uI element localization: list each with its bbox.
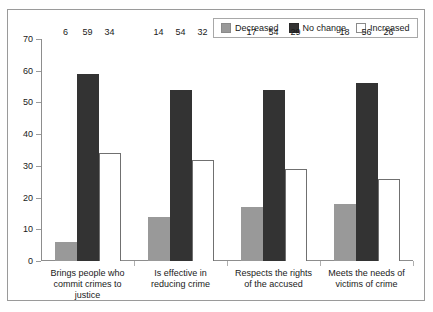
y-axis-tick: 70 <box>36 39 41 40</box>
bar-value-label: 14 <box>153 28 163 37</box>
bar-value-label: 26 <box>383 28 393 37</box>
y-axis-tick-label: 20 <box>23 193 33 202</box>
y-axis-tick-label: 60 <box>23 66 33 75</box>
bar-value-label: 29 <box>290 28 300 37</box>
bar-value-label: 59 <box>82 28 92 37</box>
bar-column: 18 <box>334 39 356 261</box>
bar-value-label: 54 <box>268 28 278 37</box>
y-axis-tick-label: 0 <box>28 257 33 266</box>
y-axis-tick-label: 70 <box>23 35 33 44</box>
y-axis-tick-label: 40 <box>23 130 33 139</box>
bar-column: 26 <box>378 39 400 261</box>
y-axis-tick: 50 <box>36 102 41 103</box>
bar: 32 <box>192 160 214 261</box>
category-label: Meets the needs ofvictims of crime <box>320 268 413 290</box>
category-label-line: justice <box>41 290 134 301</box>
bar-column: 17 <box>241 39 263 261</box>
category-label: Is effective inreducing crime <box>134 268 227 290</box>
category-separator <box>413 261 414 266</box>
category-label-line: commit crimes to <box>41 279 134 290</box>
y-axis-tick: 30 <box>36 166 41 167</box>
bar-value-label: 32 <box>197 28 207 37</box>
bar: 6 <box>55 242 77 261</box>
category-label-line: reducing crime <box>134 279 227 290</box>
chart-frame: Decreased No change Increased 7060504030… <box>7 9 425 301</box>
category-label-line: Meets the needs of <box>320 268 413 279</box>
category-label-line: of the accused <box>227 279 320 290</box>
bar: 17 <box>241 207 263 261</box>
bar: 34 <box>99 153 121 261</box>
category-label-line: victims of crime <box>320 279 413 290</box>
bar-value-label: 18 <box>339 28 349 37</box>
bar-group: 65934 <box>55 39 121 261</box>
bar: 54 <box>263 90 285 261</box>
category-label: Respects the rightsof the accused <box>227 268 320 290</box>
bar-column: 54 <box>263 39 285 261</box>
bar-group: 175429 <box>241 39 307 261</box>
y-axis-tick: 10 <box>36 229 41 230</box>
bar-column: 14 <box>148 39 170 261</box>
bar-value-label: 6 <box>63 28 68 37</box>
bar: 56 <box>356 83 378 261</box>
plot-area: 706050403020100 65934145432175429185626 <box>41 39 413 261</box>
bar-value-label: 56 <box>361 28 371 37</box>
category-separator <box>227 261 228 266</box>
bar-column: 54 <box>170 39 192 261</box>
bar-column: 29 <box>285 39 307 261</box>
y-axis-tick: 40 <box>36 134 41 135</box>
bar: 26 <box>378 179 400 261</box>
y-axis-tick-label: 50 <box>23 98 33 107</box>
bar-value-label: 54 <box>175 28 185 37</box>
y-axis-line <box>41 39 42 261</box>
bar-column: 59 <box>77 39 99 261</box>
bar-column: 32 <box>192 39 214 261</box>
bar: 54 <box>170 90 192 261</box>
category-separator <box>134 261 135 266</box>
legend-swatch-decreased <box>221 23 231 33</box>
y-axis-tick-label: 30 <box>23 161 33 170</box>
bar-column: 56 <box>356 39 378 261</box>
bar-group: 145432 <box>148 39 214 261</box>
bar-value-label: 34 <box>104 28 114 37</box>
bar-group: 185626 <box>334 39 400 261</box>
bar: 29 <box>285 169 307 261</box>
y-axis-tick-label: 10 <box>23 225 33 234</box>
bar: 59 <box>77 74 99 261</box>
bar: 14 <box>148 217 170 261</box>
bar-value-label: 17 <box>246 28 256 37</box>
y-axis-tick: 0 <box>36 261 41 262</box>
y-axis-tick: 20 <box>36 198 41 199</box>
category-label: Brings people whocommit crimes tojustice <box>41 268 134 301</box>
bar-column: 6 <box>55 39 77 261</box>
category-label-line: Brings people who <box>41 268 134 279</box>
category-separator <box>320 261 321 266</box>
y-axis-tick: 60 <box>36 71 41 72</box>
category-label-line: Is effective in <box>134 268 227 279</box>
bar: 18 <box>334 204 356 261</box>
category-label-line: Respects the rights <box>227 268 320 279</box>
bar-column: 34 <box>99 39 121 261</box>
